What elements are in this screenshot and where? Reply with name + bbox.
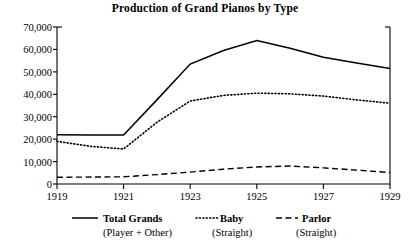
x-tick-label: 1925	[246, 191, 267, 202]
series-line-baby	[57, 93, 390, 149]
chart-legend: Total Grands (Player + Other) Baby (Stra…	[72, 213, 337, 239]
x-tick-label: 1919	[47, 191, 68, 202]
y-tick-label: 10,000	[23, 157, 52, 168]
y-tick-label: 40,000	[23, 89, 52, 100]
y-axis-tick-labels: 70,000 60,000 50,000 40,000 30,000 20,00…	[23, 22, 52, 190]
y-tick-label: 20,000	[23, 134, 52, 145]
legend-label-baby: Baby	[220, 213, 244, 224]
legend-sublabel-total-grands: (Player + Other)	[103, 227, 172, 239]
x-tick-label: 1929	[380, 191, 401, 202]
x-axis-tick-labels: 1919 1921 1923 1925 1927 1929	[47, 191, 401, 202]
x-tick-label: 1921	[113, 191, 134, 202]
y-tick-label: 30,000	[23, 112, 52, 123]
y-tick-label: 0	[47, 179, 52, 190]
legend-label-parlor: Parlor	[302, 213, 331, 224]
x-axis-ticks	[57, 184, 390, 189]
x-tick-label: 1927	[313, 191, 334, 202]
legend-sublabel-parlor: (Straight)	[296, 227, 337, 239]
series-line-total-grands	[57, 40, 390, 135]
legend-label-total-grands: Total Grands	[103, 213, 162, 224]
chart-figure: Production of Grand Pianos by Type 70,00…	[0, 0, 410, 246]
series-line-parlor	[57, 166, 390, 177]
y-tick-label: 50,000	[23, 67, 52, 78]
y-axis-ticks	[53, 27, 57, 184]
y-tick-label: 60,000	[23, 44, 52, 55]
legend-sublabel-baby: (Straight)	[212, 227, 253, 239]
line-chart-plot: 70,000 60,000 50,000 40,000 30,000 20,00…	[0, 0, 410, 246]
y-tick-label: 70,000	[23, 22, 52, 33]
x-tick-label: 1923	[180, 191, 201, 202]
